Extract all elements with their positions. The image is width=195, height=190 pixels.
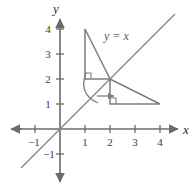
x-tick-label-1: 1 (82, 136, 88, 148)
line-y-equals-x (21, 14, 175, 168)
y-tick-label-2: 2 (45, 73, 51, 85)
reflection-diagram: y x y = x 1 2 3 4 −1 1 2 3 4 −1 (0, 0, 195, 190)
coordinate-plane-svg: y x y = x 1 2 3 4 −1 1 2 3 4 −1 (0, 0, 195, 190)
x-tick-label-3: 3 (132, 136, 138, 148)
y-axis-label: y (51, 1, 59, 16)
y-tick-label-1: 1 (45, 98, 51, 110)
x-tick-label-4: 4 (157, 136, 163, 148)
right-angle-mark-image (110, 98, 116, 104)
line-equation-label: y = x (103, 29, 129, 43)
image-triangle (110, 79, 160, 104)
x-tick-label-2: 2 (107, 136, 113, 148)
y-tick-label-3: 3 (45, 48, 51, 60)
x-tick-label-neg-1: −1 (28, 136, 40, 148)
y-tick-label-4: 4 (45, 23, 51, 35)
x-axis-label: x (182, 122, 189, 137)
y-tick-label-neg-1: −1 (43, 148, 55, 160)
